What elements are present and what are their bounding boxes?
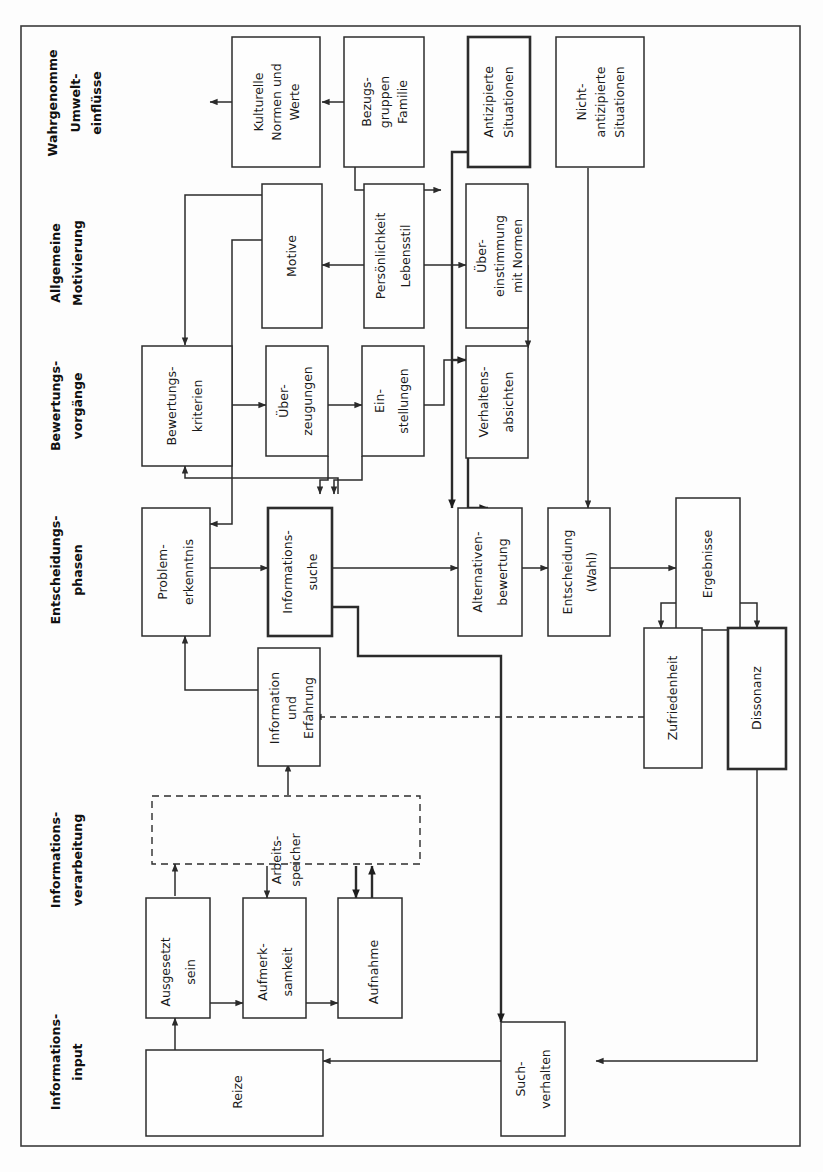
node-motive[interactable]: Motive xyxy=(262,184,322,328)
node-label-line: speicher xyxy=(288,833,303,887)
node-label-line: Informations- xyxy=(280,530,295,613)
edge-ergebnisse-dissonanz xyxy=(740,603,757,628)
node-label-line: Bewertungs- xyxy=(164,366,179,445)
node-label-line: Motive xyxy=(284,235,299,277)
node-label-line: Zufriedenheit xyxy=(665,656,680,741)
node-label-line: Verhaltens- xyxy=(476,367,491,438)
node-aufmerksamkeit[interactable]: Aufmerk- samkeit xyxy=(243,898,306,1018)
node-suchverhalten[interactable]: Such- verhalten xyxy=(501,1022,565,1136)
band-label-line: Informations- xyxy=(48,812,63,908)
node-label-line: Normen und xyxy=(269,63,284,140)
band-label-line: input xyxy=(70,1043,85,1080)
band-label-line: vorgänge xyxy=(70,372,85,439)
node-label-line: Kulturelle xyxy=(251,72,266,131)
node-label-line: Bezugs- xyxy=(359,77,374,127)
node-label-line: absichten xyxy=(501,372,516,433)
node-aufnahme[interactable]: Aufnahme xyxy=(338,898,402,1018)
node-verhaltensabsichten[interactable]: Verhaltens- absichten xyxy=(466,346,528,458)
node-label-line: Such- xyxy=(513,1061,528,1096)
node-ueberzeugungen[interactable]: Über- zeugungen xyxy=(266,346,328,456)
node-alternativenbewertung[interactable]: Alternativen- bewertung xyxy=(458,508,522,636)
node-reize[interactable]: Reize xyxy=(146,1050,323,1136)
node-label-line: gruppen xyxy=(377,76,392,128)
edge-verhaltensabsichten-entscheidung xyxy=(468,458,488,508)
edge-ergebnisse-zufriedenheit xyxy=(661,603,676,628)
node-label-line: Familie xyxy=(395,80,410,124)
band-label-line: Bewertungs- xyxy=(48,361,63,451)
edge-informationssuche-bewertungskriterien xyxy=(185,466,338,494)
node-label-line: Ausgesetzt xyxy=(158,937,173,1006)
band-label-line: Entscheidungs- xyxy=(48,515,63,624)
node-label-line: Erfahrung xyxy=(301,677,316,739)
node-label-line: Lebensstil xyxy=(398,225,413,288)
node-label-line: Über- xyxy=(275,384,291,418)
node-arbeitsspeicher[interactable]: Arbeits- speicher xyxy=(152,796,420,887)
band-label-input: Informations- input xyxy=(48,1014,85,1110)
node-label-line: Persönlichkeit xyxy=(373,213,388,300)
node-label-line: Situationen xyxy=(501,66,516,137)
node-kulturelle-normen[interactable]: Kulturelle Normen und Werte xyxy=(232,37,320,167)
node-dissonanz[interactable]: Dissonanz xyxy=(728,628,786,769)
band-label-motivierung: Allgemeine Motivierung xyxy=(48,220,85,306)
edge-information-problemerkenntnis xyxy=(185,636,258,690)
node-zufriedenheit[interactable]: Zufriedenheit xyxy=(644,628,702,768)
node-label-line: stellungen xyxy=(396,368,411,433)
node-bezugsgruppen[interactable]: Bezugs- gruppen Familie xyxy=(344,37,424,167)
band-label-line: Wahrgenomme xyxy=(45,49,60,156)
edge-einstellungen-verhaltensabsichten xyxy=(424,360,466,405)
node-information-und-erfahrung[interactable]: Information und Erfahrung xyxy=(258,648,320,766)
node-problemerkenntnis[interactable]: Problem- erkenntnis xyxy=(142,508,210,636)
band-label-verarbeitung: Informations- verarbeitung xyxy=(48,812,85,908)
node-label-line: mit Normen xyxy=(510,219,525,293)
node-label-line: Antizipierte xyxy=(481,66,496,138)
node-label-line: verhalten xyxy=(538,1049,553,1109)
edge-dissonanz-suchverhalten xyxy=(596,769,757,1061)
node-label-line: Information xyxy=(267,672,282,744)
node-label-line: kriterien xyxy=(190,380,205,433)
node-informationssuche[interactable]: Informations- suche xyxy=(268,508,332,636)
node-label-line: Aufnahme xyxy=(366,940,381,1005)
edge-ueberzeugungen-informationssuche xyxy=(320,456,328,494)
node-entscheidung-wahl[interactable]: Entscheidung (Wahl) xyxy=(548,508,610,636)
node-label-line: Über- xyxy=(473,239,489,273)
node-persoenlichkeit-lebensstil[interactable]: Persönlichkeit Lebensstil xyxy=(364,184,424,328)
node-nicht-antizipierte-situationen[interactable]: Nicht- antizipierte Situationen xyxy=(556,37,644,167)
node-label-line: Alternativen- xyxy=(470,531,485,612)
node-label-line: Werte xyxy=(287,83,302,120)
node-label-line: bewertung xyxy=(495,538,510,605)
node-ausgesetzt-sein[interactable]: Ausgesetzt sein xyxy=(146,898,210,1018)
band-label-line: Informations- xyxy=(48,1014,63,1110)
node-label-line: Problem- xyxy=(155,544,170,600)
node-label-line: und xyxy=(284,696,299,720)
node-label-line: Ein- xyxy=(372,389,387,413)
node-label-line: Reize xyxy=(230,1075,245,1109)
node-label-line: Dissonanz xyxy=(749,666,764,730)
node-ergebnisse[interactable]: Ergebnisse xyxy=(676,498,740,630)
node-einstellungen[interactable]: Ein- stellungen xyxy=(362,346,424,456)
diagram-canvas: Wahrgenomme Umwelt- einflüsse Allgemeine… xyxy=(0,0,823,1172)
band-label-line: phasen xyxy=(70,544,85,595)
band-label-line: verarbeitung xyxy=(70,814,85,907)
node-antizipierte-situationen[interactable]: Antizipierte Situationen xyxy=(468,37,530,167)
consumer-behaviour-flowchart: Wahrgenomme Umwelt- einflüsse Allgemeine… xyxy=(0,0,823,1172)
node-label-line: einstimmung xyxy=(492,215,507,297)
node-bewertungskriterien[interactable]: Bewertungs- kriterien xyxy=(142,346,232,466)
node-label-line: samkeit xyxy=(280,947,295,996)
band-label-line: Allgemeine xyxy=(48,223,63,302)
band-label-line: Umwelt- xyxy=(68,73,83,132)
band-label-line: einflüsse xyxy=(89,71,104,135)
node-label-line: erkenntnis xyxy=(181,539,196,605)
node-label-line: Aufmerk- xyxy=(255,943,270,1001)
node-label-line: Nicht- xyxy=(574,83,589,120)
band-label-umwelt: Wahrgenomme Umwelt- einflüsse xyxy=(45,49,104,156)
node-label-line: zeugungen xyxy=(300,366,315,436)
node-label-line: Entscheidung xyxy=(560,530,575,615)
band-label-line: Motivierung xyxy=(70,220,85,306)
node-uebereinstimmung-mit-normen[interactable]: Über- einstimmung mit Normen xyxy=(466,184,528,328)
node-label-line: Ergebnisse xyxy=(700,529,715,598)
node-label-line: Situationen xyxy=(612,66,627,137)
band-label-bewertung: Bewertungs- vorgänge xyxy=(48,361,85,451)
node-label-line: Arbeits- xyxy=(269,836,284,885)
edge-motive-bewertungskriterien xyxy=(185,195,262,345)
band-label-entscheidung: Entscheidungs- phasen xyxy=(48,515,85,624)
